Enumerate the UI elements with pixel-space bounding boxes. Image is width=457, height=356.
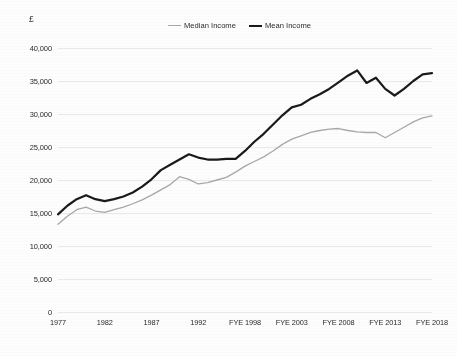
x-axis-tick-label: 1977 (50, 318, 66, 327)
x-axis-tick-label: FYE 2018 (416, 318, 448, 327)
series-lines (58, 48, 432, 312)
gridline-0 (58, 312, 432, 313)
series-line-median-income (58, 116, 432, 224)
y-axis-unit-label: £ (29, 14, 34, 24)
y-axis-tick-label: 30,000 (30, 110, 52, 119)
y-axis: 05,00010,00015,00020,00025,00030,00035,0… (0, 48, 52, 312)
legend-item-mean[interactable]: Mean Income (249, 22, 311, 30)
y-axis-tick-label: 0 (48, 308, 52, 317)
y-axis-tick-label: 10,000 (30, 242, 52, 251)
y-axis-tick-label: 5,000 (34, 275, 52, 284)
legend-swatch-median-icon (168, 25, 181, 26)
series-line-mean-income (58, 70, 432, 214)
x-axis-tick-label: FYE 1998 (229, 318, 261, 327)
income-line-chart: £ Median Income Mean Income 05,00010,000… (0, 0, 457, 356)
plot-area (58, 48, 432, 312)
y-axis-tick-label: 40,000 (30, 44, 52, 53)
legend-label-mean: Mean Income (265, 22, 311, 30)
x-axis-tick-label: 1992 (190, 318, 206, 327)
x-axis-tick-label: FYE 2013 (369, 318, 401, 327)
x-axis: 1977198219871992FYE 1998FYE 2003FYE 2008… (58, 318, 432, 334)
x-axis-tick-label: FYE 2008 (322, 318, 354, 327)
legend-item-median[interactable]: Median Income (168, 22, 236, 30)
x-axis-tick-label: FYE 2003 (276, 318, 308, 327)
y-axis-tick-label: 35,000 (30, 77, 52, 86)
y-axis-tick-label: 25,000 (30, 143, 52, 152)
legend-label-median: Median Income (184, 22, 236, 30)
legend-swatch-mean-icon (249, 25, 262, 27)
x-axis-tick-label: 1982 (97, 318, 113, 327)
y-axis-tick-label: 20,000 (30, 176, 52, 185)
x-axis-tick-label: 1987 (143, 318, 159, 327)
y-axis-tick-label: 15,000 (30, 209, 52, 218)
chart-legend: Median Income Mean Income (168, 22, 311, 30)
